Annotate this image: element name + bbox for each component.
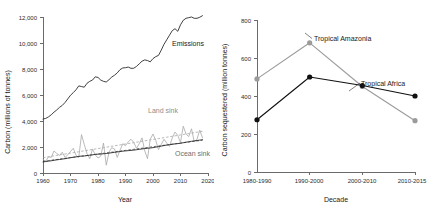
left-ytick-0: 0 xyxy=(34,171,38,177)
figure-container: Carbon (millions of tonnes) 12,000 10,00… xyxy=(0,0,427,212)
chart-panel-sequestration: Carbon sequestered (million tonnes) 800 … xyxy=(213,0,427,212)
left-ytick-2000: 2,000 xyxy=(22,145,38,151)
annotation-tropical-amazonia: Tropical Amazonia xyxy=(314,35,371,43)
series-path-land-sink xyxy=(43,126,203,165)
data-point-tropical-africa-1 xyxy=(307,74,312,79)
left-series-group xyxy=(43,16,203,166)
sequestration-chart-svg: Carbon sequestered (million tonnes) 800 … xyxy=(213,0,427,212)
left-xtick-1990: 1990 xyxy=(119,178,133,184)
right-y-axis-title: Carbon sequestered (million tonnes) xyxy=(221,44,229,157)
right-ytick-0: 0 xyxy=(248,170,252,176)
left-ytick-6000: 6,000 xyxy=(22,93,38,99)
left-ytick-10000: 10,000 xyxy=(19,41,38,47)
series-path-emissions xyxy=(43,16,203,119)
data-point-tropical-amazonia-0 xyxy=(254,76,259,81)
right-x-axis-title: Decade xyxy=(324,196,348,203)
left-ytick-8000: 8,000 xyxy=(22,67,38,73)
leader-amazonia xyxy=(305,33,312,39)
left-x-axis-title: Year xyxy=(118,196,133,203)
annotation-tropical-africa: Tropical Africa xyxy=(361,80,405,88)
right-ytick-400: 400 xyxy=(241,94,252,100)
data-point-tropical-africa-3 xyxy=(412,93,417,98)
left-ytick-12000: 12,000 xyxy=(19,15,38,21)
left-xtick-1960: 1960 xyxy=(36,178,50,184)
annotation-land-sink: Land sink xyxy=(148,107,178,114)
data-point-tropical-amazonia-3 xyxy=(412,118,417,123)
right-ytick-200: 200 xyxy=(241,132,252,138)
left-y-axis-title: Carbon (millions of tonnes) xyxy=(4,70,12,154)
data-point-tropical-africa-0 xyxy=(254,117,259,122)
left-xtick-2010: 2010 xyxy=(174,178,188,184)
right-xtick-1990-2000: 1990-2000 xyxy=(295,178,324,184)
chart-panel-emissions: Carbon (millions of tonnes) 12,000 10,00… xyxy=(0,0,214,212)
annotation-emissions: Emissions xyxy=(172,40,204,47)
emissions-chart-svg: Carbon (millions of tonnes) 12,000 10,00… xyxy=(0,0,214,212)
left-xtick-2000: 2000 xyxy=(146,178,160,184)
right-xtick-1980-1990: 1980-1990 xyxy=(243,178,272,184)
right-xtick-2010-2015: 2010-2015 xyxy=(398,178,427,184)
right-ytick-600: 600 xyxy=(241,56,252,62)
data-point-tropical-amazonia-1 xyxy=(307,40,312,45)
right-ytick-800: 800 xyxy=(241,18,252,24)
left-xtick-1970: 1970 xyxy=(64,178,78,184)
left-xtick-1980: 1980 xyxy=(91,178,105,184)
annotation-ocean-sink: Ocean sink xyxy=(175,150,211,157)
right-xtick-2000-2010: 2000-2010 xyxy=(348,178,377,184)
left-ytick-4000: 4,000 xyxy=(22,119,38,125)
